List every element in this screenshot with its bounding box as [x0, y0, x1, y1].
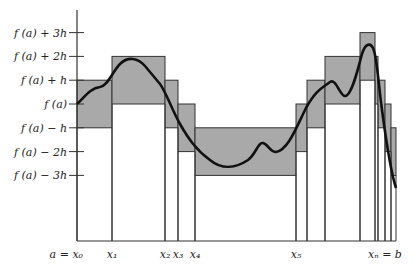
x-tick-label: x₂ — [160, 248, 171, 261]
y-tick-label: f (a) + 2h — [13, 50, 67, 63]
x-tick-label: x₅ — [291, 248, 302, 261]
oscillation-band — [195, 128, 296, 176]
x-tick-label: x₁ — [107, 248, 118, 261]
partition-figure: f (a) + 3hf (a) + 2hf (a) + hf (a)f (a) … — [0, 0, 414, 266]
y-tick-label: f (a) — [43, 98, 67, 111]
y-tick-label: f (a) + 3h — [13, 27, 67, 40]
figure-canvas: f (a) + 3hf (a) + 2hf (a) + hf (a)f (a) … — [0, 0, 414, 266]
y-tick-label: f (a) + h — [20, 74, 67, 87]
x-tick-label: a = x₀ — [50, 248, 84, 261]
y-labels: f (a) + 3hf (a) + 2hf (a) + hf (a)f (a) … — [13, 27, 67, 183]
x-labels: a = x₀x₁x₂x₃x₄x₅xₙ = b — [50, 248, 402, 261]
x-tick-label: x₄ — [190, 248, 201, 261]
x-tick-label: x₃ — [173, 248, 184, 261]
x-tick-label: xₙ = b — [368, 248, 402, 261]
y-tick-label: f (a) − 2h — [13, 146, 67, 159]
y-tick-label: f (a) − 3h — [13, 169, 67, 182]
y-tick-label: f (a) − h — [20, 122, 67, 135]
oscillation-bands — [77, 33, 396, 176]
